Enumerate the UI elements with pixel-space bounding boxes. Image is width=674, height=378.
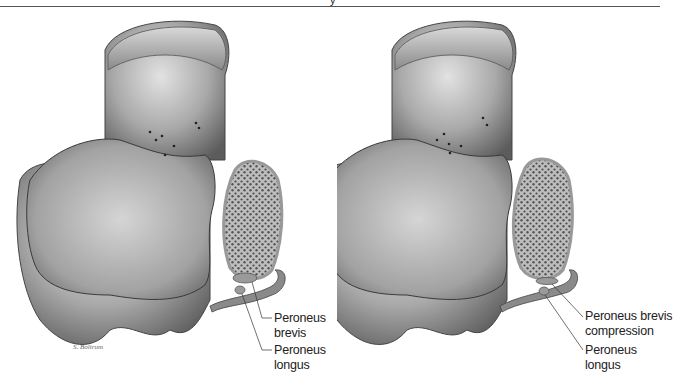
label-peroneus-longus: Peroneus longus <box>585 343 674 373</box>
panel-normal: Peroneus brevis Peroneus longus S. Boltr… <box>0 0 337 378</box>
peroneus-brevis-compressed-tendon <box>536 278 558 285</box>
peroneus-longus-tendon <box>539 287 549 295</box>
label-peroneus-longus: Peroneus longus <box>274 343 337 373</box>
artist-signature: S. Boltrum <box>73 343 103 351</box>
fibula-cross-section <box>224 161 282 278</box>
peroneus-longus-tendon <box>235 286 245 294</box>
label-line-1: Peroneus brevis <box>585 309 672 324</box>
label-peroneus-brevis: Peroneus brevis <box>274 311 337 341</box>
label-line-2: compression <box>585 324 672 339</box>
label-peroneus-brevis-compression: Peroneus brevis compression <box>585 309 672 339</box>
fibula-cross-section <box>513 159 572 279</box>
panel-compressed: Peroneus brevis compression Peroneus lon… <box>337 0 674 378</box>
peroneus-brevis-tendon <box>233 273 257 283</box>
